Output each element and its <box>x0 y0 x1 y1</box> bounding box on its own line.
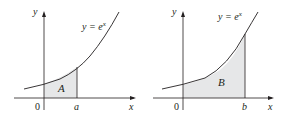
region-b-label: B <box>218 76 225 88</box>
y-axis-arrow-icon <box>42 11 46 17</box>
curve-label: y = ex <box>81 20 107 32</box>
origin-label: 0 <box>35 101 40 112</box>
x-axis-arrow-icon <box>130 96 136 100</box>
left-graph: y x 0 a A y = ex <box>14 6 136 112</box>
x-axis-label: x <box>128 101 134 112</box>
region-b-shade <box>183 34 245 98</box>
y-axis-label: y <box>171 6 177 17</box>
y-axis-label: y <box>32 6 38 17</box>
region-a-label: A <box>57 82 65 94</box>
figure-canvas: y x 0 a A y = ex y x 0 b B y = ex <box>0 0 287 118</box>
y-axis-arrow-icon <box>181 11 185 17</box>
x-axis-label: x <box>267 101 273 112</box>
x-axis-arrow-icon <box>268 96 274 100</box>
origin-label: 0 <box>174 101 179 112</box>
bound-b-label: b <box>242 101 247 112</box>
right-graph: y x 0 b B y = ex <box>153 6 274 112</box>
bound-a-label: a <box>74 101 79 112</box>
curve-label: y = ex <box>217 10 243 22</box>
